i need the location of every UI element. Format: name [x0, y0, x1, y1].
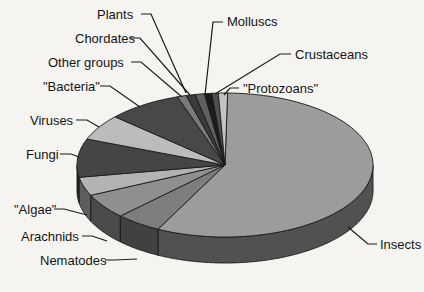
label-crustaceans: Crustaceans: [295, 47, 368, 62]
label-protozoans: "Protozoans": [243, 81, 318, 96]
pie-chart: InsectsNematodesArachnids"Algae"FungiVir…: [0, 0, 424, 292]
leader-fungi: [60, 154, 79, 157]
leader-molluscs: [205, 22, 223, 95]
label-molluscs: Molluscs: [227, 14, 278, 29]
label-chordates: Chordates: [75, 31, 135, 46]
label-viruses: Viruses: [30, 113, 74, 128]
leader-insects: [348, 227, 377, 244]
label-insects: Insects: [380, 237, 422, 252]
label-plants: Plants: [97, 7, 134, 22]
pie-chart-figure: InsectsNematodesArachnids"Algae"FungiVir…: [0, 0, 424, 292]
leader-chordates: [130, 38, 190, 95]
label-algae: "Algae": [14, 202, 57, 217]
label-other-groups: Other groups: [48, 55, 124, 70]
label-fungi: Fungi: [26, 147, 59, 162]
leader-nematodes: [105, 259, 137, 260]
leader-bacteria: [100, 86, 140, 107]
leader-arachnids: [82, 236, 107, 241]
label-nematodes: Nematodes: [40, 253, 107, 268]
leader-viruses: [76, 120, 99, 127]
label-bacteria: "Bacteria": [43, 79, 100, 94]
label-arachnids: Arachnids: [21, 229, 79, 244]
